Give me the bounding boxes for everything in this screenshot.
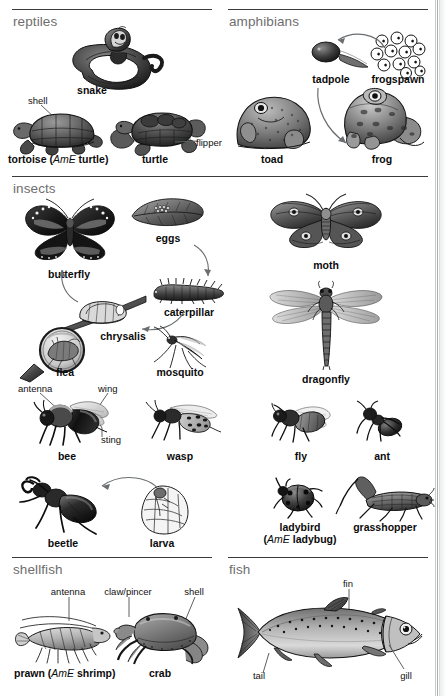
caption-ladybird-ame-word: ladybug	[290, 533, 333, 545]
moth-illustration	[268, 192, 384, 254]
wasp-illustration	[146, 400, 222, 442]
grasshopper-illustration	[336, 476, 434, 522]
caption-dragonfly: dragonfly	[302, 373, 350, 385]
caption-beetle: beetle	[48, 537, 78, 549]
section-title-reptiles: reptiles	[13, 14, 57, 29]
callout-gill-fish: gill	[400, 670, 412, 681]
caption-ladybird: ladybird	[280, 521, 321, 533]
caption-mosquito: mosquito	[156, 366, 203, 378]
toad-illustration	[228, 90, 318, 152]
caption-tortoise-main: tortoise	[8, 153, 47, 165]
caption-ladybird-ame-tag: AmE	[267, 533, 290, 545]
page-edge-line	[435, 0, 436, 696]
caption-ladybird-paren-close: )	[333, 533, 337, 545]
caption-tortoise-ame-word: turtle	[76, 153, 105, 165]
caption-bee: bee	[58, 450, 76, 462]
caption-eggs: eggs	[156, 232, 181, 244]
arrow-chrysalis-to-butterfly	[56, 268, 82, 304]
callout-flipper: flipper	[196, 137, 222, 148]
caption-toad: toad	[261, 153, 283, 165]
caption-snake: snake	[77, 84, 107, 96]
arrow-eggs-to-caterpillar	[190, 244, 212, 280]
callout-tail-fish: tail	[253, 670, 265, 681]
caption-turtle: turtle	[142, 153, 168, 165]
page-edge-shading	[440, 0, 446, 696]
caption-prawn: prawn (AmE shrimp)	[14, 667, 116, 679]
caption-chrysalis: chrysalis	[100, 330, 146, 342]
caption-ladybird-ame: (AmE ladybug)	[264, 533, 337, 545]
frog-illustration	[330, 84, 430, 152]
snake-illustration	[58, 26, 178, 94]
divider-insects	[12, 176, 428, 177]
prawn-illustration	[14, 608, 114, 664]
tadpole-illustration	[310, 40, 372, 72]
caption-grasshopper: grasshopper	[353, 521, 417, 533]
caption-ant: ant	[374, 450, 390, 462]
caption-fly: fly	[295, 450, 307, 462]
beetle-illustration	[18, 474, 110, 536]
bee-illustration	[34, 396, 112, 448]
flea-magnifier-illustration	[14, 326, 94, 382]
page-edge-line	[437, 0, 438, 696]
caption-wasp: wasp	[167, 450, 193, 462]
larva-illustration	[134, 484, 190, 536]
caterpillar-illustration	[148, 278, 228, 304]
caption-tortoise-ame-tag: AmE	[53, 153, 76, 165]
caption-frog: frog	[372, 153, 392, 165]
tortoise-illustration	[8, 107, 108, 157]
caption-prawn-paren-close: )	[112, 667, 116, 679]
section-title-fish: fish	[229, 562, 250, 577]
section-title-insects: insects	[13, 181, 56, 196]
caption-prawn-ame-tag: AmE	[51, 667, 74, 679]
divider-shellfish	[12, 557, 212, 558]
fly-illustration	[270, 402, 334, 446]
turtle-illustration	[108, 105, 208, 157]
caption-tortoise: tortoise (AmE turtle)	[8, 153, 108, 165]
caption-larva: larva	[150, 537, 175, 549]
illustration-page: reptiles snake shell	[0, 0, 446, 696]
section-title-amphibians: amphibians	[229, 14, 299, 29]
caption-flea: flea	[56, 366, 74, 378]
crab-illustration	[112, 606, 212, 666]
caption-prawn-main: prawn	[14, 667, 45, 679]
ladybird-illustration	[272, 478, 326, 518]
divider-reptiles	[12, 9, 212, 10]
butterfly-illustration	[20, 196, 120, 266]
divider-amphibians	[228, 9, 428, 10]
leader-line-gill-fish	[388, 644, 408, 670]
section-title-shellfish: shellfish	[13, 562, 63, 577]
caption-crab: crab	[149, 667, 171, 679]
caption-prawn-ame-word: shrimp	[74, 667, 112, 679]
ant-illustration	[356, 400, 408, 444]
dragonfly-illustration	[268, 280, 384, 370]
mosquito-illustration	[148, 326, 210, 370]
caption-moth: moth	[313, 259, 339, 271]
eggs-on-leaf-illustration	[130, 196, 206, 232]
divider-fish	[228, 557, 428, 558]
